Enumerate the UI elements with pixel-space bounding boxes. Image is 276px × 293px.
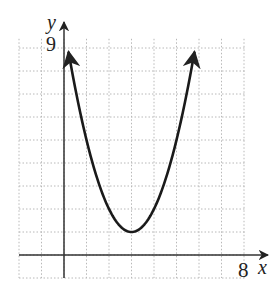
x-tick-label: 8 <box>238 258 249 283</box>
coordinate-plane <box>0 0 276 293</box>
y-tick-label: 9 <box>46 33 56 56</box>
x-axis-label: x <box>258 256 267 279</box>
graph: y 9 8 x <box>0 0 276 293</box>
y-axis-label: y <box>47 11 56 34</box>
